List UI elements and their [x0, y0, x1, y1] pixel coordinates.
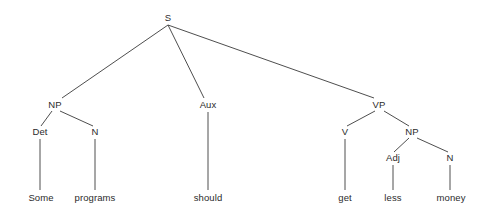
tree-node-s: S	[165, 13, 171, 23]
tree-leaf-w3: should	[194, 193, 223, 203]
tree-leaf-w5: less	[384, 193, 401, 203]
syntax-tree-diagram: SNPAuxVPDetNVNPAdjNSomeprogramsshouldget…	[0, 0, 487, 217]
tree-node-n2: N	[447, 153, 454, 163]
tree-leaf-w2: programs	[75, 193, 116, 203]
tree-node-vp: VP	[373, 100, 386, 110]
tree-edge-s-to-np1	[62, 25, 168, 98]
tree-edge-vp-to-np2	[384, 111, 409, 126]
tree-leaf-w6: money	[436, 193, 465, 203]
tree-edge-np1-to-det	[41, 111, 52, 126]
tree-edge-np2-to-n2	[417, 138, 448, 152]
tree-leaf-w4: get	[338, 193, 352, 203]
tree-leaf-w1: Some	[28, 193, 53, 203]
tree-node-np2: NP	[405, 127, 418, 137]
tree-node-v: V	[342, 127, 348, 137]
tree-node-det: Det	[32, 127, 47, 137]
tree-edge-np2-to-adj	[394, 138, 409, 152]
tree-node-adj: Adj	[386, 153, 400, 163]
tree-edge-np1-to-n1	[60, 111, 93, 126]
tree-node-aux: Aux	[200, 100, 217, 110]
tree-edges-layer	[0, 0, 487, 217]
tree-node-np1: NP	[48, 100, 61, 110]
tree-node-n1: N	[92, 127, 99, 137]
tree-edge-vp-to-v	[347, 111, 375, 126]
